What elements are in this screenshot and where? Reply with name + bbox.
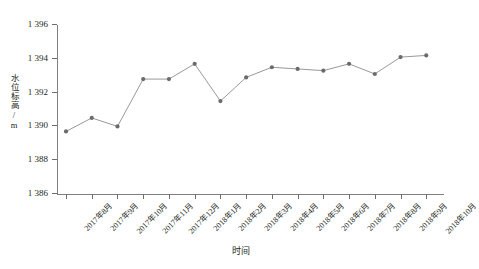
data-point [373, 72, 377, 76]
data-point [296, 67, 300, 71]
data-point [167, 77, 171, 81]
series-markers [64, 53, 428, 133]
data-point [218, 99, 222, 103]
data-point [193, 62, 197, 66]
data-point [270, 65, 274, 69]
data-point [90, 116, 94, 120]
x-axis-title: 时间 [232, 246, 250, 256]
data-point [321, 69, 325, 73]
data-point [244, 75, 248, 79]
series-line [66, 55, 426, 131]
data-point [398, 55, 402, 59]
data-point [115, 124, 119, 128]
data-point [141, 77, 145, 81]
data-point [347, 62, 351, 66]
data-point [64, 129, 68, 133]
data-point [424, 53, 428, 57]
